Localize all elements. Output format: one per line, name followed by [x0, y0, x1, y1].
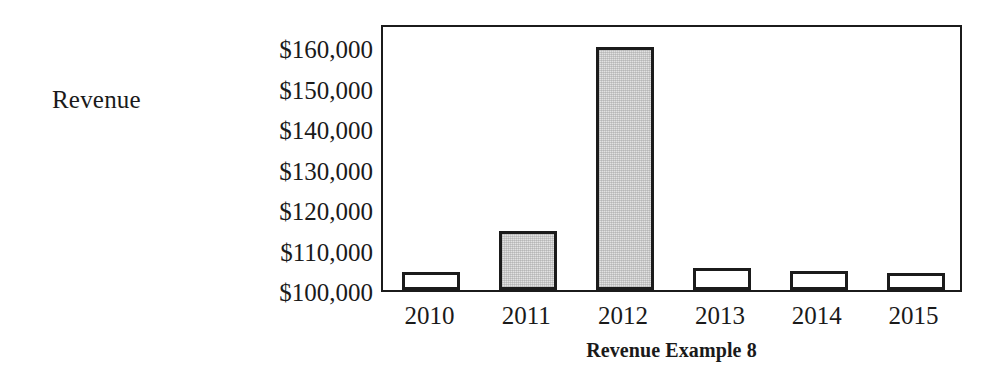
- x-tick-label: 2011: [502, 300, 551, 332]
- plot-area: [381, 25, 962, 292]
- bar-2012[interactable]: [596, 47, 654, 290]
- bar-2014[interactable]: [790, 271, 848, 290]
- y-tick-label: $110,000: [218, 239, 373, 264]
- x-tick-label: 2014: [792, 300, 842, 332]
- y-axis-title: Revenue: [52, 85, 222, 115]
- bar-2011[interactable]: [499, 231, 557, 290]
- x-tick-label: 2010: [404, 300, 454, 332]
- y-tick-label: $140,000: [218, 118, 373, 143]
- bar-2013[interactable]: [693, 268, 751, 290]
- bar-2015[interactable]: [887, 273, 945, 290]
- y-tick-label: $120,000: [218, 199, 373, 224]
- x-tick-label: 2015: [889, 300, 939, 332]
- x-tick-label: 2012: [598, 300, 648, 332]
- x-axis-tick-labels: 201020112012201320142015: [381, 300, 962, 336]
- y-tick-label: $150,000: [218, 77, 373, 102]
- y-tick-label: $130,000: [218, 158, 373, 183]
- x-tick-label: 2013: [695, 300, 745, 332]
- bars-container: [383, 27, 960, 290]
- y-axis-tick-labels: $160,000$150,000$140,000$130,000$120,000…: [218, 25, 373, 292]
- revenue-bar-chart-figure: Revenue $160,000$150,000$140,000$130,000…: [0, 0, 1007, 391]
- bar-2010[interactable]: [402, 272, 460, 290]
- y-tick-label: $100,000: [218, 280, 373, 305]
- chart-title: Revenue Example 8: [381, 338, 962, 362]
- y-tick-label: $160,000: [218, 37, 373, 62]
